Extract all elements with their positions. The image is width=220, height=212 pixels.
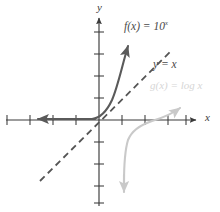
x-axis-label: x <box>205 111 210 123</box>
log-curve <box>124 108 180 192</box>
function-graph-figure: f(x) = 10x y = x g(x) = log x y x <box>0 0 220 212</box>
log-label-argument: x <box>197 79 202 91</box>
identity-line-y-equals-x <box>40 52 170 181</box>
log-function-label: g(x) = log x <box>150 79 202 91</box>
y-axis <box>94 18 104 206</box>
exponential-label-exponent: x <box>165 19 168 26</box>
graph-canvas <box>0 0 220 212</box>
identity-line-label: y = x <box>153 58 177 70</box>
exponential-label-text: f(x) = 10 <box>124 20 165 32</box>
y-axis-label: y <box>97 1 102 13</box>
log-label-text: g(x) = log <box>150 79 197 91</box>
x-axis <box>6 115 196 125</box>
exponential-function-label: f(x) = 10x <box>124 19 168 32</box>
